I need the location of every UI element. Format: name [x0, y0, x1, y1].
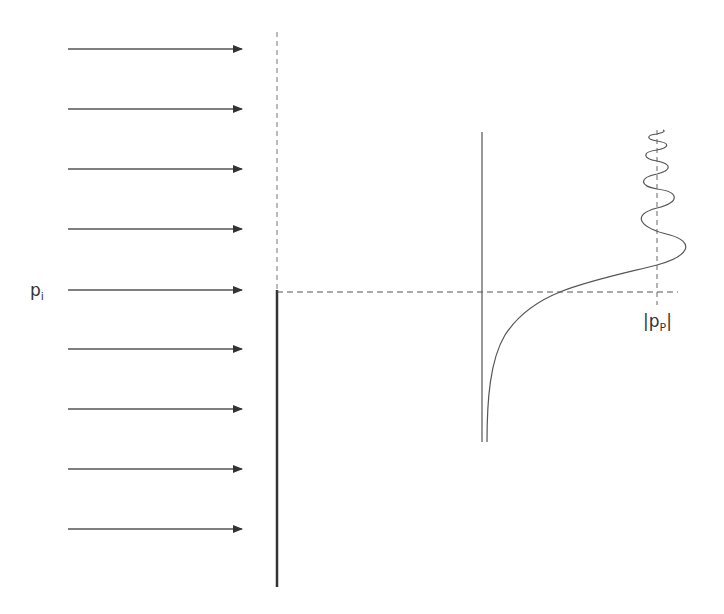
- pressure-amplitude-label: |pP|: [643, 311, 672, 334]
- diffraction-diagram: [0, 0, 724, 614]
- incident-pressure-label: pi: [30, 280, 44, 303]
- incident-wave-arrows: [68, 49, 242, 529]
- amplitude-curve: [487, 130, 686, 442]
